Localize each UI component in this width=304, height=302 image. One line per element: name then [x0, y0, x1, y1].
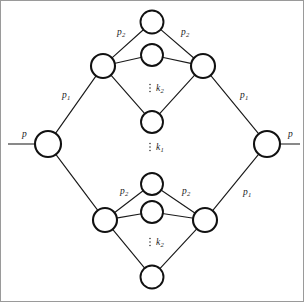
vertical-ellipsis-upper: [149, 84, 151, 93]
right-terminal-node: [254, 131, 280, 157]
ellipsis-dot: [149, 245, 151, 247]
label-subscript: 1: [161, 146, 164, 153]
edge-left-terminal-to-lower-left: [55, 154, 98, 211]
edge-upper-bottom-to-upper-right: [159, 74, 195, 114]
label-base: p: [21, 129, 27, 139]
label-subscript: 2: [161, 87, 165, 94]
label-subscript: 1: [248, 191, 251, 198]
vertical-ellipsis-lower: [149, 238, 151, 247]
lower-diamond-top-node: [141, 173, 163, 195]
label-subscript: 1: [67, 94, 70, 101]
label-subscript: 2: [186, 31, 190, 38]
upper-diamond-middle-node: [141, 44, 163, 66]
label-subscript: 2: [125, 190, 129, 197]
ellipsis-dot: [149, 84, 151, 86]
lower-diamond-left-node: [93, 208, 117, 232]
edge-lower-left-to-lower-bottom: [112, 229, 145, 269]
label-p1-upper-right: p1: [239, 90, 248, 101]
label-p1-lower-right: p1: [242, 187, 251, 198]
label-p-left: p: [21, 129, 27, 139]
label-subscript: 2: [161, 241, 165, 248]
edge-lower-left-to-lower-mid: [116, 214, 142, 218]
edge-upper-left-to-upper-bottom: [111, 75, 146, 115]
lower-diamond-middle-node: [141, 201, 163, 223]
network-diagram-svg: ppp1p1p1p2p2p2p2k2k1k2: [0, 0, 304, 302]
label-k2-upper: k2: [156, 83, 165, 94]
label-p2-upper-right: p2: [180, 27, 190, 38]
lower-diamond-right-node: [193, 208, 217, 232]
label-p2-lower-left: p2: [119, 186, 129, 197]
left-terminal-node: [35, 131, 61, 157]
ellipsis-dot: [149, 238, 151, 240]
label-subscript: 2: [122, 31, 126, 38]
ellipsis-dot: [149, 146, 151, 148]
upper-diamond-bottom-node: [141, 111, 163, 133]
edge-lower-left-to-lower-top: [114, 190, 144, 213]
label-p1-upper-left: p1: [61, 90, 70, 101]
label-p-right: p: [287, 129, 293, 139]
label-k1-middle: k1: [156, 142, 164, 153]
edge-lower-mid-to-lower-right: [162, 214, 193, 219]
upper-diamond-top-node: [141, 11, 164, 34]
edge-left-terminal-to-upper-left: [55, 75, 96, 134]
label-p2-upper-left: p2: [116, 27, 126, 38]
label-p2-lower-right: p2: [181, 186, 191, 197]
label-k2-lower: k2: [156, 237, 165, 248]
edge-lower-bottom-to-lower-right: [159, 228, 197, 269]
edge-upper-mid-to-upper-right: [162, 57, 192, 63]
ellipsis-dot: [149, 91, 151, 93]
vertical-ellipsis-middle: [149, 143, 151, 152]
ellipsis-dot: [149, 150, 151, 152]
lower-diamond-bottom-node: [141, 266, 164, 289]
ellipsis-dot: [149, 143, 151, 145]
upper-diamond-right-node: [191, 54, 215, 78]
label-base: p: [287, 129, 293, 139]
edge-upper-right-to-right-terminal: [210, 75, 259, 135]
edge-upper-left-to-upper-mid: [114, 57, 142, 63]
figure-container: ppp1p1p1p2p2p2p2k2k1k2: [0, 0, 304, 302]
label-subscript: 1: [245, 94, 248, 101]
ellipsis-dot: [149, 87, 151, 89]
upper-diamond-left-node: [91, 54, 115, 78]
edge-lower-right-to-right-terminal: [212, 154, 259, 212]
label-subscript: 2: [187, 190, 191, 197]
ellipsis-dot: [149, 241, 151, 243]
